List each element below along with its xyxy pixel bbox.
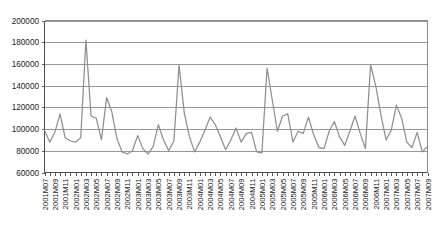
x-axis-tick-label: 2007M09 xyxy=(424,179,433,211)
x-axis-tick-label: 2001M11 xyxy=(61,179,70,210)
x-axis-tick-label: 2004M03 xyxy=(206,179,215,211)
y-axis-tick-label: 80000 xyxy=(16,147,39,156)
x-axis-tick-label: 2004M07 xyxy=(227,179,236,211)
x-axis-tick-label: 2005M05 xyxy=(279,179,288,211)
y-axis-tick-label: 60000 xyxy=(16,169,39,178)
x-axis-tick-label: 2006M09 xyxy=(361,179,370,211)
x-axis-tick-label: 2003M05 xyxy=(154,179,163,211)
x-axis-tick-label: 2002M01 xyxy=(72,179,81,211)
gridlines xyxy=(42,22,428,174)
y-axis-tick-label: 120000 xyxy=(12,103,40,112)
x-axis-tick-label: 2006M11 xyxy=(372,179,381,210)
x-axis-tick-label: 2002M05 xyxy=(92,179,101,211)
chart-canvas: 6000080000100000120000140000160000180000… xyxy=(0,0,439,233)
x-axis-tick-label: 2002M07 xyxy=(103,179,112,211)
x-axis-tick-label: 2003M07 xyxy=(165,179,174,211)
x-axis-tick-label: 2002M11 xyxy=(123,179,132,210)
plot-frame xyxy=(45,21,428,173)
x-axis-tick-label: 2007M01 xyxy=(382,179,391,211)
x-axis-tick-label: 2006M07 xyxy=(351,179,360,211)
x-axis-tick-label: 2002M03 xyxy=(82,179,91,211)
x-axis-tick-label: 2005M01 xyxy=(258,179,267,211)
x-axis-tick-label: 2002M09 xyxy=(113,179,122,211)
x-axis-tick-label: 2004M05 xyxy=(216,179,225,211)
x-axis-tick-label: 2007M05 xyxy=(403,179,412,211)
x-axis-tick-label: 2003M09 xyxy=(175,179,184,211)
x-axis-tick-label: 2005M07 xyxy=(289,179,298,211)
y-axis-tick-label: 200000 xyxy=(12,17,40,26)
x-axis-tick-label: 2006M03 xyxy=(330,179,339,211)
x-axis-tick-label: 2001M07 xyxy=(41,179,50,211)
x-axis-tick-label: 2004M11 xyxy=(248,179,257,210)
x-axis-tick-label: 2006M01 xyxy=(320,179,329,211)
y-axis-tick-label: 140000 xyxy=(12,82,40,91)
data-series xyxy=(45,40,428,154)
series-line xyxy=(45,40,428,154)
x-axis-tick-label: 2003M01 xyxy=(134,179,143,211)
x-axis-tick-label: 2005M09 xyxy=(299,179,308,211)
line-chart: 6000080000100000120000140000160000180000… xyxy=(0,0,439,233)
x-axis-tick-label: 2006M05 xyxy=(341,179,350,211)
y-axis-tick-label: 160000 xyxy=(12,60,40,69)
x-axis-tick-label: 2004M09 xyxy=(237,179,246,211)
x-axis-tick-label: 2005M03 xyxy=(268,179,277,211)
x-axis-tick-label: 2003M11 xyxy=(185,179,194,210)
x-axis-tick-label: 2007M03 xyxy=(392,179,401,211)
x-axis-tick-label: 2005M11 xyxy=(310,179,319,210)
y-axis-tick-labels: 6000080000100000120000140000160000180000… xyxy=(12,17,40,178)
x-axis-tick-label: 2003M03 xyxy=(144,179,153,211)
x-axis-tick-label: 2007M07 xyxy=(413,179,422,211)
x-axis-tick-label: 2001M09 xyxy=(51,179,60,211)
x-axis-tick-label: 2004M01 xyxy=(196,179,205,211)
y-axis-tick-label: 100000 xyxy=(12,125,40,134)
y-axis-tick-label: 180000 xyxy=(12,38,40,47)
x-axis-tick-labels: 2001M072001M092001M112002M012002M032002M… xyxy=(41,179,433,211)
